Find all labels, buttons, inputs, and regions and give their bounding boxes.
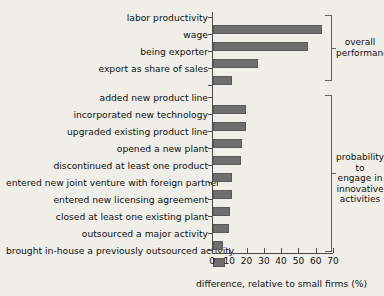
x-axis-tick <box>281 248 282 253</box>
y-axis-tick <box>208 68 212 69</box>
x-axis-tick <box>333 248 334 253</box>
group-label-line: overall <box>336 37 384 48</box>
group-label-line: performance <box>336 48 384 59</box>
y-axis-tick <box>208 51 212 52</box>
group-label-line: innovative <box>336 184 384 195</box>
category-label-entered-new-licensing-agreement: entered new licensing agreement <box>6 195 212 205</box>
y-axis-tick <box>208 85 212 86</box>
x-axis-tick <box>264 248 265 253</box>
bar-chart: labor productivity wage being exporter e… <box>0 0 384 296</box>
category-label-entered-new-joint-venture: entered new joint venture with foreign p… <box>6 178 212 188</box>
category-label-outsourced-a-major-activity: outsourced a major activity <box>6 229 212 239</box>
y-axis-tick <box>208 34 212 35</box>
bar-incorporated-new-technology <box>213 122 246 131</box>
y-axis-tick <box>208 233 212 234</box>
x-axis-tick <box>316 248 317 253</box>
group-bracket-overall-performance <box>325 15 332 81</box>
group-label-innovative-activities: probability to engage in innovative acti… <box>336 152 384 205</box>
x-axis-tick-label: 70 <box>323 256 343 266</box>
x-axis-title: difference, relative to small firms (%) <box>196 278 367 289</box>
bar-outsourced-a-major-activity <box>213 241 223 250</box>
y-axis-tick <box>208 182 212 183</box>
category-label-wage: wage <box>6 30 212 40</box>
bar-entered-new-licensing-agreement <box>213 207 230 216</box>
category-label-closed-at-least-one-existing-plant: closed at least one existing plant <box>6 212 212 222</box>
category-label-opened-a-new-plant: opened a new plant <box>6 144 212 154</box>
category-label-incorporated-new-technology: incorporated new technology <box>6 110 212 120</box>
y-axis-tick <box>208 131 212 132</box>
bar-discontinued-at-least-one-product <box>213 173 232 182</box>
x-axis-line <box>212 253 333 254</box>
bar-wage <box>213 42 308 51</box>
category-label-discontinued-at-least-one-product: discontinued at least one product <box>6 161 212 171</box>
group-label-line: probability to <box>336 152 384 173</box>
bar-closed-at-least-one-existing-plant <box>213 224 229 233</box>
y-axis-tick <box>208 97 212 98</box>
category-labels: labor productivity wage being exporter e… <box>0 0 212 296</box>
y-axis-tick <box>208 114 212 115</box>
y-axis-tick <box>208 216 212 217</box>
bar-entered-new-joint-venture <box>213 190 232 199</box>
plot-area: 0 10 20 30 40 50 60 70 <box>212 12 333 252</box>
group-label-line: activities <box>336 194 384 205</box>
bar-added-new-product-line <box>213 105 246 114</box>
y-axis-tick <box>208 17 212 18</box>
y-axis-tick <box>208 199 212 200</box>
y-axis-tick <box>208 148 212 149</box>
x-axis-tick <box>298 248 299 253</box>
category-label-added-new-product-line: added new product line <box>6 93 212 103</box>
bar-opened-a-new-plant <box>213 156 241 165</box>
x-axis-tick <box>247 248 248 253</box>
category-label-brought-in-house-previously-outsourced: brought in-house a previously outsourced… <box>6 246 212 256</box>
category-label-being-exporter: being exporter <box>6 47 212 57</box>
bar-labor-productivity <box>213 25 322 34</box>
x-axis-tick <box>229 248 230 253</box>
bar-export-share-of-sales <box>213 76 232 85</box>
category-label-upgraded-existing-product-line: upgraded existing product line <box>6 127 212 137</box>
x-axis-tick <box>212 248 213 253</box>
group-bracket-innovative-activities <box>325 95 332 252</box>
bar-being-exporter <box>213 59 258 68</box>
group-label-overall-performance: overall performance <box>336 37 384 58</box>
category-label-export-share-of-sales: export as share of sales <box>6 64 212 74</box>
group-label-line: engage in <box>336 173 384 184</box>
y-axis-tick <box>208 165 212 166</box>
bar-upgraded-existing-product-line <box>213 139 242 148</box>
category-label-labor-productivity: labor productivity <box>6 13 212 23</box>
